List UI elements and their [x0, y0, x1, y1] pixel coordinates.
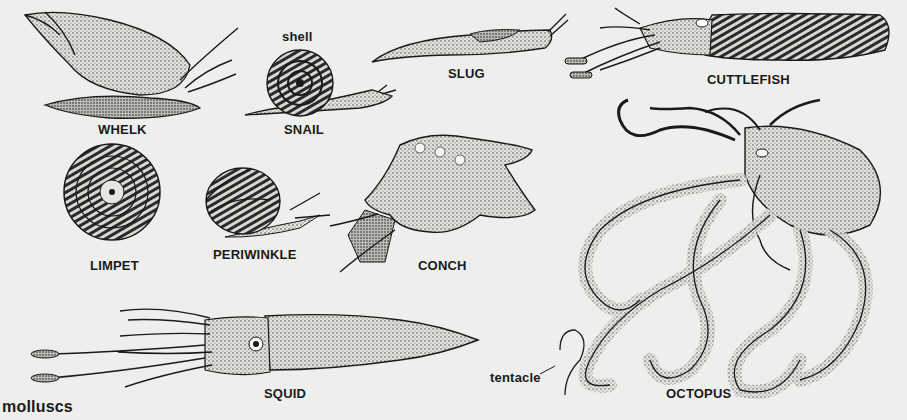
label-limpet: LIMPET	[90, 258, 139, 273]
whelk-illustration	[25, 12, 238, 118]
label-slug: SLUG	[448, 66, 485, 81]
conch-illustration	[330, 135, 535, 272]
figure-caption: molluscs	[2, 398, 73, 416]
label-octopus: OCTOPUS	[666, 386, 731, 401]
limpet-illustration	[64, 144, 160, 240]
molluscs-figure: WHELK shell SNAIL SLUG CUTTLEFISH LIMPET…	[0, 0, 907, 420]
slug-illustration	[372, 14, 568, 62]
label-whelk: WHELK	[98, 122, 147, 137]
label-conch: CONCH	[418, 258, 467, 273]
cuttlefish-illustration	[565, 8, 889, 78]
periwinkle-illustration	[206, 168, 330, 237]
label-snail: SNAIL	[284, 122, 324, 137]
label-squid: SQUID	[264, 386, 306, 401]
label-tentacle: tentacle	[490, 370, 541, 385]
squid-illustration	[31, 309, 478, 387]
label-cuttlefish: CUTTLEFISH	[707, 72, 790, 87]
octopus-illustration	[540, 100, 880, 395]
label-periwinkle: PERIWINKLE	[213, 247, 297, 262]
label-shell: shell	[282, 29, 313, 44]
snail-illustration	[245, 50, 396, 116]
